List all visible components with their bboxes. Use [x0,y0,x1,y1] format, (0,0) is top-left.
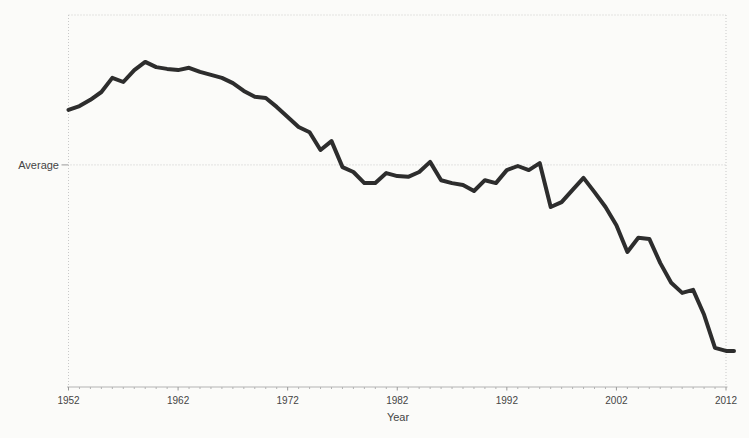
x-tick-label: 2002 [605,395,628,406]
x-tick-label: 1962 [167,395,190,406]
chart-figure: 1952196219721982199220022012 Average Yea… [0,0,749,438]
x-axis-ticks [69,387,727,391]
x-axis-title: Year [387,411,410,423]
x-tick-label: 1972 [277,395,300,406]
data-line [69,62,735,351]
x-tick-label: 1952 [57,395,80,406]
average-by-year-line-chart: 1952196219721982199220022012 Average Yea… [0,0,749,438]
x-tick-label: 2012 [715,395,738,406]
x-tick-labels: 1952196219721982199220022012 [57,395,737,406]
y-axis-label: Average [18,159,59,171]
x-tick-label: 1982 [386,395,409,406]
x-tick-label: 1992 [496,395,519,406]
